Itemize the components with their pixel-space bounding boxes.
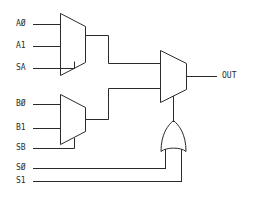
mux-b-body (61, 95, 86, 145)
or-gate-body (161, 121, 186, 152)
mux-a-body (61, 14, 86, 76)
wire-mux-a-output (86, 36, 161, 64)
circuit-schematic-svg (0, 0, 253, 198)
label-s0: SØ (16, 164, 26, 172)
label-a1: A1 (16, 42, 26, 50)
label-b0: BØ (16, 100, 26, 108)
wire-sa-to-mux-a-select (34, 62, 75, 69)
mux-out-body (161, 51, 187, 103)
label-s1: S1 (16, 177, 26, 185)
label-a0: AØ (16, 20, 26, 28)
circuit-diagram: AØ A1 SA BØ B1 SB SØ S1 OUT (0, 0, 253, 198)
label-out: OUT (222, 72, 236, 80)
wire-mux-b-output (86, 89, 161, 120)
label-b1: B1 (16, 124, 26, 132)
label-sb: SB (16, 144, 26, 152)
label-sa: SA (16, 64, 26, 72)
